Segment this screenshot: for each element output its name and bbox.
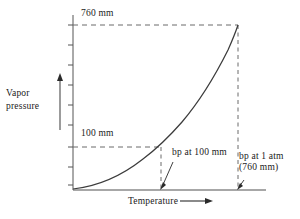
y-axis-title-line1: Vapor	[6, 88, 30, 98]
leader-arrow-bp-100mm	[160, 162, 173, 190]
vapor-pressure-curve	[73, 25, 238, 189]
x-axis-title: Temperature	[128, 196, 178, 207]
y-axis-ticks	[68, 25, 73, 185]
annotation-bp-at-1atm: bp at 1 atm(760 mm)	[239, 151, 284, 173]
chart-canvas	[0, 0, 300, 219]
annotation-pressure-760: 760 mm	[81, 8, 114, 19]
y-axis-arrow-icon	[57, 73, 63, 130]
annotation-bp-at-1atm-line2: (760 mm)	[239, 162, 284, 173]
y-axis-title: Vaporpressure	[6, 87, 39, 113]
annotation-bp-at-100mm: bp at 100 mm	[172, 147, 227, 158]
x-axis-arrow-icon	[180, 198, 213, 204]
y-axis-title-line2: pressure	[6, 100, 39, 113]
vapor-pressure-chart: 760 mm 100 mm bp at 100 mm bp at 1 atm(7…	[0, 0, 300, 219]
annotation-pressure-100: 100 mm	[81, 128, 114, 139]
annotation-bp-at-1atm-line1: bp at 1 atm	[239, 151, 284, 161]
